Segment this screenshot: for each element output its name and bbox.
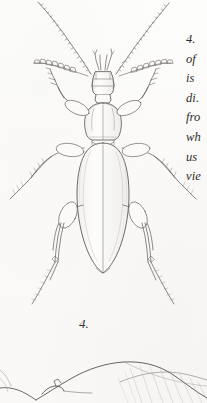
right-hindleg-icon xyxy=(123,199,174,304)
caption-line: of xyxy=(186,50,207,70)
neck-icon xyxy=(95,95,111,103)
caption-line: fro xyxy=(186,108,207,128)
figure-4-beetle xyxy=(10,2,196,304)
mandibles-icon xyxy=(93,49,114,70)
beetle-plate-drawing xyxy=(0,0,207,403)
caption-line: wh xyxy=(186,128,207,148)
illustration-plate: 4. 4. of is di. fro wh us vie xyxy=(0,0,207,403)
left-maxillary-palp-icon xyxy=(34,59,88,76)
right-maxillary-palp-icon xyxy=(119,59,173,76)
right-foreleg-icon xyxy=(115,68,160,119)
caption-line: is xyxy=(186,69,207,89)
figure-partial-lateral-beetle xyxy=(0,362,207,403)
left-hindleg-icon xyxy=(32,199,83,304)
elytra-icon xyxy=(77,143,129,273)
pronotum-icon xyxy=(85,103,122,145)
figure-number-label: 4. xyxy=(79,316,89,332)
caption-line: 4. xyxy=(186,30,207,50)
head-icon xyxy=(92,72,114,95)
caption-line: di. xyxy=(186,89,207,109)
left-midleg-icon xyxy=(10,142,85,199)
right-midleg-icon xyxy=(121,142,196,199)
left-foreleg-icon xyxy=(46,68,91,119)
caption-line: us xyxy=(186,148,207,168)
caption-line: vie xyxy=(186,167,207,187)
caption-block: 4. of is di. fro wh us vie xyxy=(186,30,207,187)
